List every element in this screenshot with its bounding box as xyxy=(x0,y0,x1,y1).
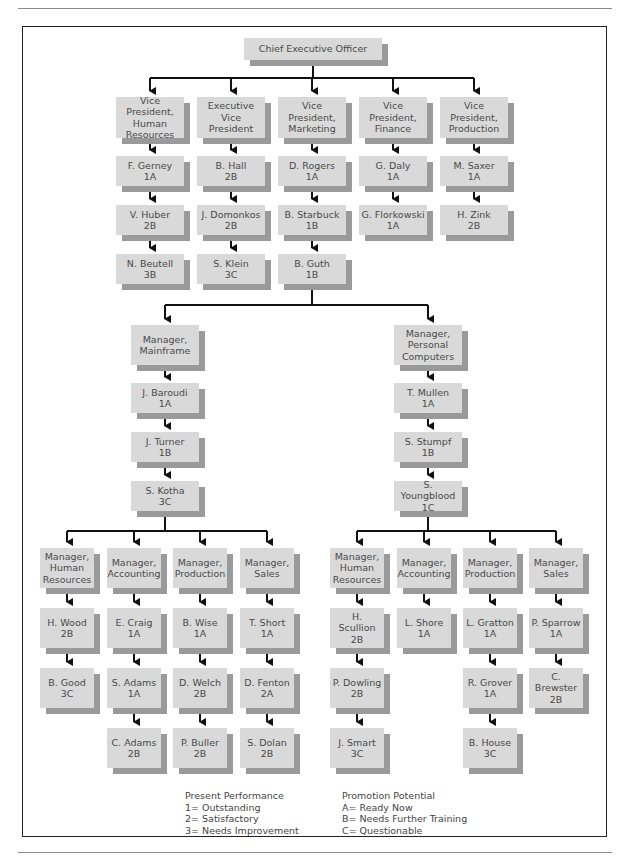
box-rating: 2B xyxy=(351,688,364,700)
division-manager-box[interactable]: Manager, Mainframe xyxy=(131,325,199,365)
employee-box[interactable]: H. Zink2B xyxy=(440,205,508,235)
box-label: T. Short xyxy=(249,617,285,629)
legend-heading: Promotion Potential xyxy=(342,790,467,802)
employee-box[interactable]: P. Sparrow1A xyxy=(529,608,583,648)
department-manager-box[interactable]: Manager, Sales xyxy=(529,548,583,588)
box-label: Manager, Personal Computers xyxy=(402,328,454,363)
employee-box[interactable]: S. Kotha3C xyxy=(131,481,199,511)
employee-box[interactable]: B. Starbuck1B xyxy=(278,205,346,235)
employee-box[interactable]: J. Domonkos2B xyxy=(197,205,265,235)
box-label: P. Dowling xyxy=(333,677,382,689)
employee-box[interactable]: J. Smart3C xyxy=(330,728,384,768)
employee-box[interactable]: B. Guth1B xyxy=(278,254,346,284)
box-label: Executive Vice President xyxy=(199,100,263,135)
box-rating: 1B xyxy=(159,447,172,459)
box-label: M. Saxer xyxy=(453,160,494,172)
employee-box[interactable]: N. Beutell3B xyxy=(116,254,184,284)
box-label: Manager, Human Resources xyxy=(333,551,382,586)
employee-box[interactable]: V. Huber2B xyxy=(116,205,184,235)
box-label: P. Sparrow xyxy=(531,617,580,629)
employee-box[interactable]: P. Dowling2B xyxy=(330,668,384,708)
box-rating: 1A xyxy=(550,628,563,640)
department-manager-box[interactable]: Manager, Sales xyxy=(240,548,294,588)
division-manager-box[interactable]: Manager, Personal Computers xyxy=(394,325,462,365)
box-label: P. Buller xyxy=(181,737,219,749)
employee-box[interactable]: S. Klein3C xyxy=(197,254,265,284)
box-label: Vice President, Production xyxy=(442,100,506,135)
employee-box[interactable]: E. Craig1A xyxy=(107,608,161,648)
box-rating: 1A xyxy=(387,220,400,232)
employee-box[interactable]: D. Welch2B xyxy=(173,668,227,708)
legend-item: A= Ready Now xyxy=(342,802,467,814)
department-manager-box[interactable]: Manager, Accounting xyxy=(397,548,451,588)
employee-box[interactable]: G. Florkowski1A xyxy=(359,205,427,235)
box-label: G. Florkowski xyxy=(361,209,424,221)
legend-item: 2= Satisfactory xyxy=(185,813,299,825)
employee-box[interactable]: B. Hall2B xyxy=(197,156,265,186)
box-label: J. Smart xyxy=(338,737,376,749)
box-label: J. Turner xyxy=(146,436,185,448)
employee-box[interactable]: G. Daly1A xyxy=(359,156,427,186)
box-label: B. Hall xyxy=(216,160,247,172)
employee-box[interactable]: B. Wise1A xyxy=(173,608,227,648)
legend-item: 1= Outstanding xyxy=(185,802,299,814)
employee-box[interactable]: J. Baroudi1A xyxy=(131,383,199,413)
box-label: S. Stumpf xyxy=(405,436,451,448)
box-label: Vice President, Marketing xyxy=(280,100,344,135)
employee-box[interactable]: B. House3C xyxy=(463,728,517,768)
employee-box[interactable]: C. Adams2B xyxy=(107,728,161,768)
employee-box[interactable]: T. Mullen1A xyxy=(394,383,462,413)
employee-box[interactable]: L. Gratton1A xyxy=(463,608,517,648)
box-label: G. Daly xyxy=(376,160,411,172)
box-rating: 3B xyxy=(144,269,157,281)
employee-box[interactable]: M. Saxer1A xyxy=(440,156,508,186)
vp-box[interactable]: Vice President, Production xyxy=(440,97,508,138)
vp-box[interactable]: Vice President, Human Resources xyxy=(116,97,184,138)
employee-box[interactable]: D. Rogers1A xyxy=(278,156,346,186)
employee-box[interactable]: B. Good3C xyxy=(40,668,94,708)
department-manager-box[interactable]: Manager, Human Resources xyxy=(330,548,384,588)
box-label: S. Kotha xyxy=(145,485,184,497)
employee-box[interactable]: T. Short1A xyxy=(240,608,294,648)
box-rating: 2B xyxy=(194,748,207,760)
employee-box[interactable]: F. Gerney1A xyxy=(116,156,184,186)
department-manager-box[interactable]: Manager, Human Resources xyxy=(40,548,94,588)
employee-box[interactable]: S. Adams1A xyxy=(107,668,161,708)
vp-box[interactable]: Vice President, Finance xyxy=(359,97,427,138)
box-label: B. Guth xyxy=(294,258,330,270)
box-label: D. Welch xyxy=(179,677,221,689)
ceo-box[interactable]: Chief Executive Officer xyxy=(244,38,382,60)
employee-box[interactable]: S. Dolan2B xyxy=(240,728,294,768)
box-label: D. Fenton xyxy=(244,677,290,689)
box-label: B. Starbuck xyxy=(285,209,340,221)
vp-box[interactable]: Vice President, Marketing xyxy=(278,97,346,138)
box-label: Manager, Sales xyxy=(245,557,290,580)
employee-box[interactable]: L. Shore1A xyxy=(397,608,451,648)
department-manager-box[interactable]: Manager, Accounting xyxy=(107,548,161,588)
box-rating: 1A xyxy=(387,171,400,183)
box-label: C. Brewster xyxy=(531,671,581,694)
employee-box[interactable]: S. Stumpf1B xyxy=(394,432,462,462)
department-manager-box[interactable]: Manager, Production xyxy=(463,548,517,588)
employee-box[interactable]: C. Brewster2B xyxy=(529,668,583,708)
box-rating: 2A xyxy=(261,688,274,700)
legend-potential: Promotion Potential A= Ready Now B= Need… xyxy=(342,790,467,836)
employee-box[interactable]: R. Grover1A xyxy=(463,668,517,708)
box-rating: 1B xyxy=(306,269,319,281)
vp-box[interactable]: Executive Vice President xyxy=(197,97,265,138)
employee-box[interactable]: J. Turner1B xyxy=(131,432,199,462)
employee-box[interactable]: H. Scullion2B xyxy=(330,608,384,648)
box-label: Manager, Production xyxy=(175,557,226,580)
box-rating: 3C xyxy=(61,688,74,700)
employee-box[interactable]: S. Youngblood1C xyxy=(394,481,462,511)
box-label: Manager, Production xyxy=(465,557,516,580)
employee-box[interactable]: D. Fenton2A xyxy=(240,668,294,708)
employee-box[interactable]: H. Wood2B xyxy=(40,608,94,648)
department-manager-box[interactable]: Manager, Production xyxy=(173,548,227,588)
employee-box[interactable]: P. Buller2B xyxy=(173,728,227,768)
box-rating: 2B xyxy=(128,748,141,760)
box-rating: 1A xyxy=(306,171,319,183)
box-rating: 2B xyxy=(351,634,364,646)
legend-item: C= Questionable xyxy=(342,825,467,837)
box-rating: 3C xyxy=(159,496,172,508)
